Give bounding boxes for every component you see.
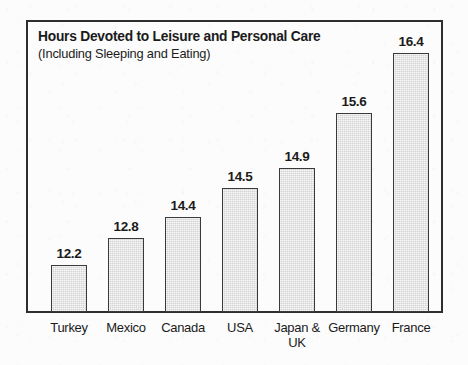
- bar-category-label: France: [375, 320, 447, 335]
- bar-value-label: 14.4: [151, 198, 215, 213]
- bars-layer: 12.2Turkey12.8Mexico14.4Canada14.5USA14.…: [0, 0, 468, 365]
- bar: [51, 265, 87, 312]
- bar: [393, 53, 429, 312]
- bar-value-label: 16.4: [379, 34, 443, 49]
- bar-category-label-line2: UK: [261, 335, 333, 350]
- chart-figure: Hours Devoted to Leisure and Personal Ca…: [0, 0, 468, 365]
- bar: [279, 168, 315, 312]
- bar: [165, 217, 201, 312]
- bar-value-label: 15.6: [322, 94, 386, 109]
- bar: [336, 113, 372, 312]
- bar: [108, 238, 144, 312]
- bar-value-label: 12.2: [37, 246, 101, 261]
- bar-value-label: 14.9: [265, 149, 329, 164]
- bar-value-label: 12.8: [94, 219, 158, 234]
- bar: [222, 188, 258, 312]
- bar-value-label: 14.5: [208, 169, 272, 184]
